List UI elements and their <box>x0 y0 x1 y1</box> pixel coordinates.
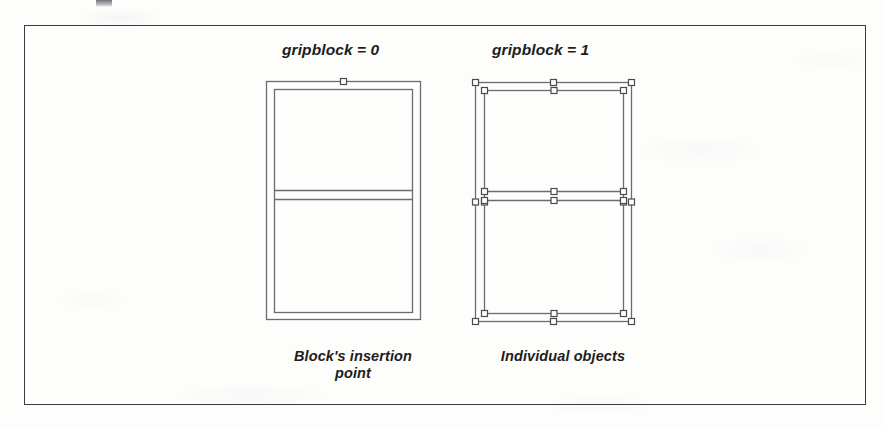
grip-square <box>621 88 627 94</box>
grip-square <box>551 198 557 204</box>
insertion-point-grip <box>341 79 347 85</box>
caption-left-line2: point <box>253 365 453 382</box>
grip-square <box>473 199 479 205</box>
grip-square <box>629 319 635 325</box>
caption-right: Individual objects <box>463 348 663 365</box>
grip-square <box>629 199 635 205</box>
grip-square <box>629 80 635 86</box>
right-panel-drawing <box>473 80 635 325</box>
grip-square <box>621 189 627 195</box>
left-panel-drawing <box>267 79 421 320</box>
left-outer-rectangle <box>267 82 421 320</box>
grip-square <box>473 319 479 325</box>
grip-square <box>482 88 488 94</box>
grip-square <box>551 311 557 317</box>
grip-square <box>551 88 557 94</box>
grip-square <box>551 80 557 86</box>
grip-square <box>621 311 627 317</box>
caption-left-line1: Block's insertion <box>253 348 453 365</box>
grip-square <box>473 80 479 86</box>
grip-square <box>482 198 488 204</box>
caption-left: Block's insertion point <box>253 348 453 382</box>
caption-right-line1: Individual objects <box>463 348 663 365</box>
figure-container: gripblock = 0 gripblock = 1 Block's inse… <box>0 0 886 427</box>
grip-square <box>621 198 627 204</box>
grip-square <box>482 311 488 317</box>
left-inner-rectangle <box>275 90 413 313</box>
grip-square <box>482 189 488 195</box>
grip-square <box>551 319 557 325</box>
grip-square <box>551 189 557 195</box>
